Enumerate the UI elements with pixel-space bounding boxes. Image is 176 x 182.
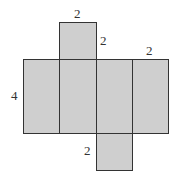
label-top-width: 2 <box>74 7 81 20</box>
label-top-height: 2 <box>100 34 107 47</box>
label-right-width: 2 <box>146 44 153 57</box>
face-3 <box>97 60 133 134</box>
top-face <box>60 23 97 60</box>
face-4 <box>133 60 169 134</box>
label-bottom: 2 <box>84 144 91 157</box>
face-1 <box>24 60 60 134</box>
bottom-face <box>97 134 133 171</box>
face-2 <box>60 60 97 134</box>
label-left-height: 4 <box>11 89 18 102</box>
